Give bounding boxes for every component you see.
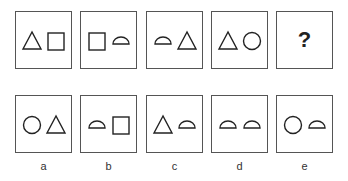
option-label-c: c — [146, 160, 203, 172]
semicircle-icon — [155, 37, 171, 44]
shapes-graphic — [212, 96, 269, 154]
shapes-graphic — [147, 12, 204, 70]
square-icon — [48, 33, 64, 50]
shapes-graphic — [212, 12, 269, 70]
shapes-graphic — [277, 96, 334, 154]
circle-icon — [244, 33, 261, 50]
square-icon — [89, 33, 105, 50]
square-icon — [113, 117, 129, 134]
question-panel-3 — [146, 11, 203, 69]
triangle-icon — [23, 32, 41, 49]
answer-option-e[interactable] — [276, 95, 333, 153]
shapes-graphic — [16, 12, 73, 70]
question-panel-5: ? — [276, 11, 333, 69]
circle-icon — [24, 117, 41, 134]
option-label-d: d — [211, 160, 268, 172]
triangle-icon — [47, 116, 65, 133]
answer-option-c[interactable] — [146, 95, 203, 153]
answer-option-b[interactable] — [80, 95, 137, 153]
triangle-icon — [219, 32, 237, 49]
answer-option-a[interactable] — [15, 95, 72, 153]
semicircle-icon — [220, 121, 236, 128]
option-label-b: b — [80, 160, 137, 172]
shapes-graphic — [147, 96, 204, 154]
question-panel-2 — [80, 11, 137, 69]
semicircle-icon — [244, 121, 260, 128]
semicircle-icon — [179, 121, 195, 128]
option-label-a: a — [15, 160, 72, 172]
triangle-icon — [154, 116, 172, 133]
semicircle-icon — [113, 37, 129, 44]
shapes-graphic — [81, 96, 138, 154]
triangle-icon — [178, 32, 196, 49]
answer-option-d[interactable] — [211, 95, 268, 153]
shapes-graphic — [16, 96, 73, 154]
semicircle-icon — [309, 121, 325, 128]
question-panel-1 — [15, 11, 72, 69]
question-mark: ? — [277, 12, 332, 68]
question-panel-4 — [211, 11, 268, 69]
option-label-e: e — [276, 160, 333, 172]
semicircle-icon — [89, 121, 105, 128]
shapes-graphic — [81, 12, 138, 70]
circle-icon — [285, 117, 302, 134]
